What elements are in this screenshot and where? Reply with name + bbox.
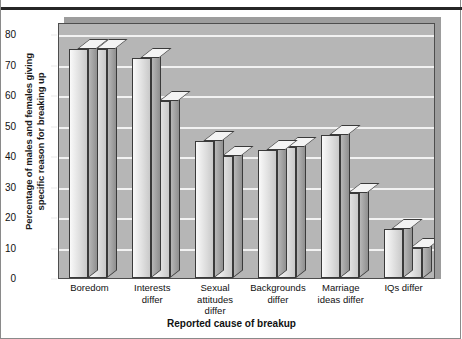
y-axis-title-line1: Percentage of males and females giving (23, 53, 34, 230)
x-axis-title: Reported cause of breakup (1, 318, 462, 329)
y-axis-tick-label: 10 (0, 243, 16, 254)
y-axis-tick-mark (51, 95, 57, 97)
bar-top-face (410, 238, 435, 248)
bar-front-face (258, 150, 277, 278)
bar-side-face (340, 127, 350, 278)
bar-males-3 (258, 150, 277, 278)
bar-top-face (140, 48, 172, 58)
bar-side-face (151, 51, 161, 278)
y-axis-tick-mark (51, 156, 57, 158)
y-axis-tick-label: 80 (0, 29, 16, 40)
bar-top-face (203, 131, 235, 141)
bar-side-face (403, 221, 413, 278)
bar-front-face (195, 141, 214, 278)
y-axis-tick-label: 0 (0, 273, 16, 284)
y-axis-tick-label: 20 (0, 212, 16, 223)
x-axis-category-label-5: IQs differ (372, 282, 435, 294)
bar-males-0 (69, 49, 88, 278)
bar-front-face (132, 58, 151, 278)
bar-side-face (214, 133, 224, 278)
bar-front-face (321, 135, 340, 278)
gridline (59, 35, 434, 37)
plot-area (58, 23, 435, 279)
x-axis-category-label-3: Backgroundsdiffer (247, 282, 310, 305)
y-axis-tick-label: 40 (0, 151, 16, 162)
bar-side-face (277, 142, 287, 278)
x-axis-category-label-0: Boredom (58, 282, 121, 294)
y-axis-tick-mark (51, 217, 57, 219)
y-axis-tick-label: 70 (0, 60, 16, 71)
bar-side-face (88, 41, 98, 278)
plot-area-wrapper (58, 17, 441, 279)
bar-top-face (391, 219, 423, 229)
y-axis-tick-mark (51, 65, 57, 67)
x-axis-category-label-2: Sexualattitudesdiffer (184, 282, 247, 317)
y-axis-tick-label: 30 (0, 182, 16, 193)
y-axis-tick-mark (51, 187, 57, 189)
bar-side-face (359, 185, 369, 278)
bar-front-face (384, 229, 403, 278)
y-axis-tick-label: 50 (0, 121, 16, 132)
bar-males-2 (195, 141, 214, 278)
bar-side-face (296, 139, 306, 278)
bar-side-face (170, 93, 180, 278)
y-axis-tick-mark (51, 126, 57, 128)
x-axis-category-label-1: Interestsdiffer (121, 282, 184, 305)
bar-males-5 (384, 229, 403, 278)
y-axis-tick-mark (51, 248, 57, 250)
bar-front-face (69, 49, 88, 278)
bar-side-face (233, 148, 243, 278)
top-rule-divider (1, 7, 462, 10)
bar-males-4 (321, 135, 340, 278)
y-axis-tick-label: 60 (0, 90, 16, 101)
y-axis-tick-mark (51, 34, 57, 36)
y-axis-title: Percentage of males and females giving s… (23, 17, 46, 267)
x-axis-category-label-4: Marriageideas differ (309, 282, 372, 305)
y-axis-tick-mark (51, 278, 57, 280)
bar-side-face (107, 41, 117, 278)
bar-males-1 (132, 58, 151, 278)
y-axis-title-line2: specific reason for breaking up (34, 73, 45, 211)
bar-top-face (222, 146, 254, 156)
